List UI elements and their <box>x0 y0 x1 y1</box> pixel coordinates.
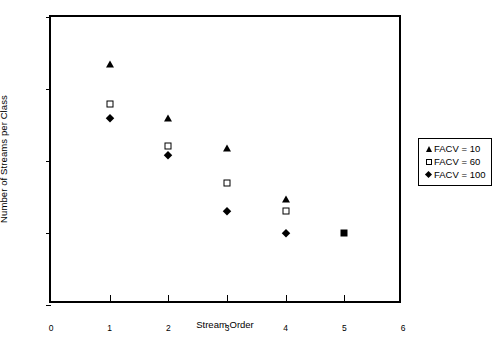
figure-canvas: Number of Streams per Class 10001001010.… <box>0 0 500 345</box>
filled-triangle-marker <box>164 114 172 121</box>
filled-diamond-marker <box>164 151 172 159</box>
x-tick-label: 0 <box>49 323 54 333</box>
legend-item: FACV = 60 <box>423 155 486 168</box>
legend-item-label: FACV = 100 <box>434 169 486 180</box>
x-tick-label: 4 <box>283 323 288 333</box>
filled-triangle-marker <box>223 145 231 152</box>
x-tick-mark <box>110 295 111 301</box>
x-tick-mark <box>286 295 287 301</box>
x-tick-label: 6 <box>401 323 406 333</box>
filled-triangle-marker <box>282 195 290 202</box>
filled-diamond-marker <box>223 207 231 215</box>
x-tick-label: 2 <box>166 323 171 333</box>
y-tick-mark <box>46 17 51 18</box>
legend-item-label: FACV = 10 <box>434 143 480 154</box>
y-axis-title-label: Number of Streams per Class <box>0 95 9 223</box>
y-axis-title: Number of Streams per Class <box>0 95 9 223</box>
filled-diamond-icon <box>423 172 434 177</box>
overlapping-markers <box>341 230 348 237</box>
legend-item-label: FACV = 60 <box>434 156 480 167</box>
plot-area: 10001001010.1 0123456 <box>49 15 401 303</box>
y-tick-mark <box>46 161 51 162</box>
x-tick-label: 1 <box>107 323 112 333</box>
open-square-icon <box>423 159 434 165</box>
x-tick-mark <box>168 295 169 301</box>
x-tick-mark <box>227 295 228 301</box>
legend-item: FACV = 10 <box>423 142 486 155</box>
filled-triangle-marker <box>106 61 114 68</box>
filled-diamond-marker <box>106 114 114 122</box>
y-tick-mark <box>46 233 51 234</box>
x-tick-label: 5 <box>342 323 347 333</box>
figure-caption <box>6 336 498 345</box>
y-tick-mark <box>46 89 51 90</box>
filled-diamond-marker <box>282 229 290 237</box>
open-square-marker <box>106 100 113 107</box>
filled-triangle-icon <box>423 146 434 152</box>
open-square-marker <box>165 143 172 150</box>
x-axis-title: Stream Order <box>196 319 254 330</box>
legend-item: FACV = 100 <box>423 168 486 181</box>
open-square-marker <box>282 208 289 215</box>
open-square-marker <box>224 179 231 186</box>
y-tick-mark <box>46 305 51 306</box>
legend: FACV = 10 FACV = 60 FACV = 100 <box>418 138 492 186</box>
x-tick-mark <box>344 295 345 301</box>
